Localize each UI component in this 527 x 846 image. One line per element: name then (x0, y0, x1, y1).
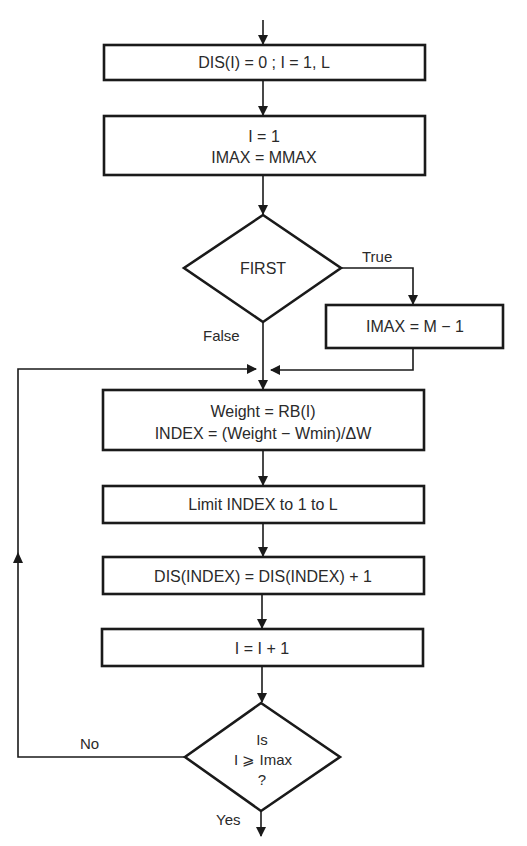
node-compute-index: Weight = RB(I) INDEX = (Weight − Wmin)/Δ… (103, 390, 424, 450)
node-loop-decision: Is I ⩾ Imax ? (185, 703, 340, 811)
node-init-i-text-1: I = 1 (248, 128, 280, 145)
node-init-i: I = 1 IMAX = MMAX (104, 116, 425, 175)
node-init-i-text-2: IMAX = MMAX (211, 149, 317, 166)
node-increment-i: I = I + 1 (102, 629, 423, 666)
node-increment-dis-text: DIS(INDEX) = DIS(INDEX) + 1 (154, 568, 372, 585)
node-loop-decision-text-2: I ⩾ Imax (234, 751, 293, 768)
node-first-decision-text: FIRST (240, 260, 286, 277)
flowchart: DIS(I) = 0 ; I = 1, L I = 1 IMAX = MMAX … (0, 0, 527, 846)
node-first-decision: FIRST (184, 215, 341, 322)
edge-label-yes: Yes (216, 811, 240, 828)
edge-label-no: No (80, 735, 99, 752)
node-init-dis: DIS(I) = 0 ; I = 1, L (104, 45, 425, 80)
node-compute-index-text-2: INDEX = (Weight − Wmin)/ΔW (155, 425, 373, 442)
node-loop-decision-text-1: Is (256, 731, 268, 748)
node-limit-index-text: Limit INDEX to 1 to L (188, 496, 337, 513)
edge-label-false: False (203, 327, 240, 344)
edge-true (341, 268, 413, 304)
node-compute-index-text-1: Weight = RB(I) (210, 403, 315, 420)
edge-set-imax-merge (271, 348, 413, 370)
node-set-imax: IMAX = M − 1 (326, 305, 503, 348)
edge-label-true: True (362, 248, 392, 265)
node-loop-decision-text-3: ? (258, 771, 266, 788)
loop-up-arrowhead (13, 552, 23, 563)
node-set-imax-text: IMAX = M − 1 (366, 318, 464, 335)
node-increment-dis: DIS(INDEX) = DIS(INDEX) + 1 (103, 557, 424, 594)
node-init-dis-text: DIS(I) = 0 ; I = 1, L (198, 54, 330, 71)
node-increment-i-text: I = I + 1 (235, 640, 289, 657)
node-limit-index: Limit INDEX to 1 to L (103, 486, 424, 523)
